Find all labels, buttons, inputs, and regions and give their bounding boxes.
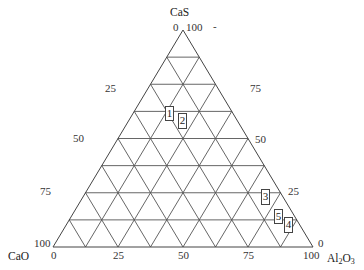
tick-left-75: 75	[40, 186, 51, 197]
grid-line	[216, 166, 265, 247]
tick-right-0: 0	[318, 238, 324, 249]
sample-point-2: 2	[178, 113, 187, 129]
vertex-label-al2o3: Al2O3	[327, 252, 355, 264]
grid-line	[86, 57, 200, 247]
tick-top-100: 100	[186, 22, 203, 33]
grid-line	[134, 111, 215, 247]
tick-left-100: 100	[34, 238, 51, 249]
tick-bottom-25: 25	[113, 250, 124, 261]
tick-bottom-0: 0	[51, 250, 57, 261]
sample-point-3: 3	[261, 189, 270, 205]
grid-line	[167, 57, 281, 247]
tick-bottom-75: 75	[243, 250, 254, 261]
sample-point-5: 5	[274, 209, 283, 224]
tick-bottom-50: 50	[178, 250, 189, 261]
tick-right-50: 50	[255, 134, 266, 145]
tick-right-75: 75	[250, 83, 261, 94]
grid-line	[69, 220, 85, 247]
stray-mark: -	[213, 21, 217, 32]
tick-top-0: 0	[173, 22, 179, 33]
sample-point-4: 4	[284, 217, 293, 233]
vertex-label-cao: CaO	[8, 250, 29, 262]
grid-line	[102, 166, 151, 247]
tick-left-50: 50	[73, 133, 84, 144]
tick-right-25: 25	[288, 186, 299, 197]
tick-bottom-100: 100	[303, 250, 320, 261]
vertex-label-cas: CaS	[170, 6, 189, 18]
sample-point-1: 1	[165, 106, 174, 121]
tick-left-25: 25	[105, 83, 116, 94]
grid-line	[151, 111, 232, 247]
ternary-grid	[0, 0, 364, 270]
